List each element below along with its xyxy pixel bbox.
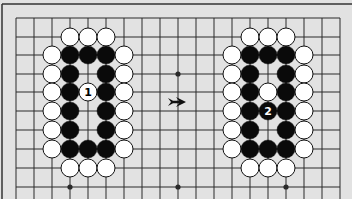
black-stone xyxy=(97,83,115,101)
white-stone xyxy=(43,65,61,83)
black-stone xyxy=(241,65,259,83)
white-stone xyxy=(43,83,61,101)
star-point xyxy=(175,184,180,189)
white-stone: 1 xyxy=(79,83,97,101)
black-stone xyxy=(259,140,277,158)
black-stone xyxy=(277,102,295,120)
white-stone xyxy=(241,28,259,46)
black-stone xyxy=(97,140,115,158)
white-stone xyxy=(61,159,79,177)
white-stone xyxy=(223,46,241,64)
black-stone xyxy=(277,140,295,158)
white-stone xyxy=(259,159,277,177)
white-stone xyxy=(295,83,313,101)
white-stone xyxy=(241,159,259,177)
black-stone xyxy=(61,140,79,158)
white-stone xyxy=(115,121,133,139)
below-area xyxy=(0,199,352,208)
star-point xyxy=(283,184,288,189)
go-board-diagram: 1 2 xyxy=(0,0,352,208)
black-stone: 2 xyxy=(259,102,277,120)
white-stone xyxy=(223,102,241,120)
white-stone xyxy=(43,121,61,139)
white-stone xyxy=(115,140,133,158)
white-stone xyxy=(43,102,61,120)
black-stone xyxy=(277,65,295,83)
black-stone xyxy=(79,140,97,158)
black-stone xyxy=(241,102,259,120)
white-stone xyxy=(277,159,295,177)
black-stone xyxy=(97,65,115,83)
white-stone xyxy=(79,159,97,177)
white-stone xyxy=(223,83,241,101)
white-stone xyxy=(43,140,61,158)
white-stone xyxy=(115,65,133,83)
white-stone xyxy=(295,121,313,139)
black-stone xyxy=(97,121,115,139)
black-stone xyxy=(259,46,277,64)
white-stone xyxy=(97,159,115,177)
black-stone xyxy=(61,83,79,101)
black-stone xyxy=(97,46,115,64)
black-stone xyxy=(61,65,79,83)
white-stone xyxy=(115,102,133,120)
move-number: 2 xyxy=(264,105,272,118)
white-stone xyxy=(295,140,313,158)
black-stone xyxy=(97,102,115,120)
white-stone xyxy=(259,83,277,101)
white-stone xyxy=(115,46,133,64)
white-stone xyxy=(61,28,79,46)
black-stone xyxy=(61,46,79,64)
white-stone xyxy=(295,65,313,83)
white-stone xyxy=(43,46,61,64)
star-point xyxy=(175,71,180,76)
black-stone xyxy=(241,83,259,101)
white-stone xyxy=(97,28,115,46)
white-stone xyxy=(295,46,313,64)
black-stone xyxy=(277,121,295,139)
black-stone xyxy=(61,102,79,120)
black-stone xyxy=(277,83,295,101)
black-stone xyxy=(241,121,259,139)
white-stone xyxy=(79,28,97,46)
move-number: 1 xyxy=(84,86,92,99)
black-stone xyxy=(79,46,97,64)
white-stone xyxy=(223,121,241,139)
black-stone xyxy=(61,121,79,139)
white-stone xyxy=(277,28,295,46)
white-stone xyxy=(295,102,313,120)
white-stone xyxy=(259,28,277,46)
black-stone xyxy=(241,140,259,158)
white-stone xyxy=(223,65,241,83)
black-stone xyxy=(277,46,295,64)
white-stone xyxy=(223,140,241,158)
star-point xyxy=(67,184,72,189)
black-stone xyxy=(241,46,259,64)
white-stone xyxy=(115,83,133,101)
